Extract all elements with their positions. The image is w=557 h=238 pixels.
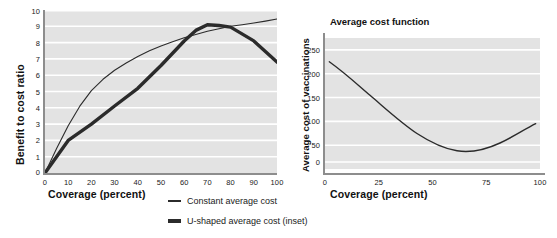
y-tick-label: 4 xyxy=(26,103,40,112)
x-tick-label: 25 xyxy=(375,178,384,187)
chart-title-average-cost: Average cost function xyxy=(330,16,429,27)
x-tick-label: 70 xyxy=(203,178,212,187)
y-tick-label: 1 xyxy=(26,152,40,161)
plot-canvas-benefit-cost xyxy=(45,10,277,173)
y-tick-label: 6 xyxy=(26,71,40,80)
plot-canvas-average-cost xyxy=(325,38,540,169)
x-axis-title-average-cost: Coverage (percent) xyxy=(330,188,428,200)
y-tick-label: 10 xyxy=(26,7,40,16)
x-tick-label: 60 xyxy=(180,178,189,187)
y-tick-label: 0 xyxy=(26,168,40,177)
x-tick-label: 50 xyxy=(428,178,437,187)
x-tick-label: 0 xyxy=(43,178,47,187)
x-tick-label: 10 xyxy=(64,178,73,187)
y-tick-label: 7 xyxy=(26,54,40,63)
x-tick-label: 50 xyxy=(157,178,166,187)
y-tick-label: 8 xyxy=(26,38,40,47)
x-tick-label: 80 xyxy=(226,178,235,187)
x-tick-label: 40 xyxy=(134,178,143,187)
x-tick-label: 30 xyxy=(110,178,119,187)
legend-item-u-shaped-average-cost[interactable]: U-shaped average cost (inset) xyxy=(168,216,308,226)
x-tick-label: 20 xyxy=(87,178,96,187)
gridlines-average-cost xyxy=(325,50,540,162)
chart-average-cost: Average cost function 250 200 150 1 xyxy=(290,0,557,238)
x-tick-label: 100 xyxy=(271,178,284,187)
x-tick-label: 90 xyxy=(250,178,259,187)
x-tick-label: 0 xyxy=(323,178,327,187)
legend-item-constant-average-cost[interactable]: Constant average cost xyxy=(168,196,277,206)
x-tick-label: 100 xyxy=(534,178,547,187)
x-tick-label: 75 xyxy=(482,178,491,187)
y-tick-label: 5 xyxy=(26,87,40,96)
y-tick-label: 2 xyxy=(26,136,40,145)
plot-area-average-cost xyxy=(325,38,540,169)
legend-line-thick-icon xyxy=(168,219,181,222)
y-tick-label: 3 xyxy=(26,120,40,129)
y-axis-line-average-cost xyxy=(323,33,325,174)
x-axis-line-average-cost xyxy=(323,173,545,175)
plot-area-benefit-cost xyxy=(45,10,277,173)
y-tick-label: 9 xyxy=(26,22,40,31)
legend-line-thin-icon xyxy=(168,200,181,201)
y-axis-line-benefit-cost xyxy=(43,10,45,174)
series-u-shaped-average-cost xyxy=(45,25,277,173)
figure-container: 10 9 8 7 6 5 4 3 2 1 0 0 10 20 30 40 50 … xyxy=(0,0,557,238)
x-axis-title-benefit-cost: Coverage (percent) xyxy=(48,188,146,200)
series-average-cost xyxy=(329,62,535,152)
y-axis-title-average-cost: Average cost of vaccinations xyxy=(300,38,311,172)
legend-item-label: Constant average cost xyxy=(187,196,277,206)
x-axis-line-benefit-cost xyxy=(43,173,277,175)
y-axis-title-benefit-cost: Benefit to cost ratio xyxy=(14,64,26,165)
